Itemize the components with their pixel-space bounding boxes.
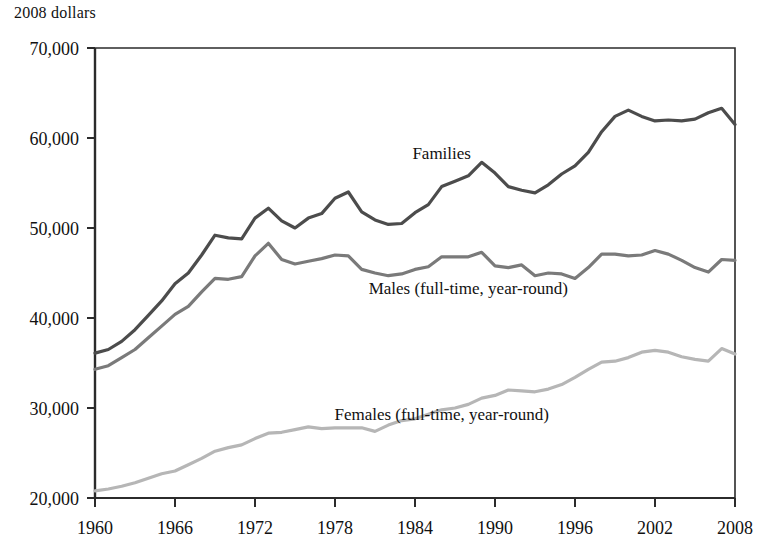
x-axis-tick-label: 1960 [77, 518, 113, 538]
chart-series [95, 108, 735, 491]
x-axis-tick-label: 1978 [317, 518, 353, 538]
y-axis-tick-label: 30,000 [30, 399, 80, 419]
x-axis-ticks: 196019661972197819841990199620022008 [77, 498, 753, 538]
x-axis-tick-label: 1996 [557, 518, 593, 538]
x-axis-tick-label: 2002 [637, 518, 673, 538]
series-line-males [95, 243, 735, 369]
x-axis-tick-label: 1972 [237, 518, 273, 538]
y-axis-tick-label: 50,000 [30, 219, 80, 239]
series-annotation-males: Males (full-time, year-round) [369, 279, 568, 298]
x-axis-tick-label: 1990 [477, 518, 513, 538]
x-axis-tick-label: 1966 [157, 518, 193, 538]
x-axis-tick-label: 2008 [717, 518, 753, 538]
x-axis-tick-label: 1984 [397, 518, 433, 538]
y-axis-tick-label: 70,000 [30, 39, 80, 59]
y-axis-tick-label: 40,000 [30, 309, 80, 329]
y-axis-tick-label: 60,000 [30, 129, 80, 149]
y-axis-ticks: 20,00030,00040,00050,00060,00070,000 [30, 39, 96, 509]
income-line-chart: 20,00030,00040,00050,00060,00070,000 196… [0, 0, 780, 552]
chart-page: 2008 dollars 20,00030,00040,00050,00060,… [0, 0, 780, 552]
series-annotations: FamiliesMales (full-time, year-round)Fem… [334, 144, 568, 424]
y-axis-tick-label: 20,000 [30, 489, 80, 509]
series-annotation-families: Families [412, 144, 471, 163]
series-annotation-females: Females (full-time, year-round) [334, 405, 548, 424]
